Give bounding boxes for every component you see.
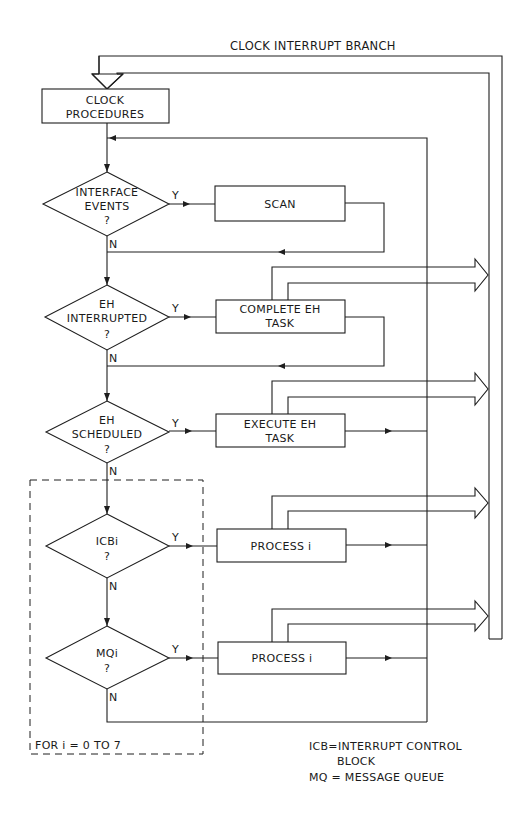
- legend: ICB=INTERRUPT CONTROL BLOCK MQ = MESSAGE…: [309, 740, 463, 784]
- decision-icb-i: ICBi ? Y N: [46, 514, 179, 593]
- process-text: EXECUTE EH: [244, 418, 317, 431]
- yes-label: Y: [171, 643, 179, 656]
- decision-text: ?: [104, 328, 110, 341]
- process-execute-eh-task: EXECUTE EH TASK: [216, 414, 345, 447]
- process-text: TASK: [265, 317, 295, 330]
- no-label: N: [109, 691, 118, 704]
- diagram-title: CLOCK INTERRUPT BRANCH: [230, 39, 396, 53]
- yes-label: Y: [171, 531, 179, 544]
- decision-eh-scheduled: EH SCHEDULED ? Y N: [46, 401, 179, 478]
- decision-text: ?: [104, 214, 110, 227]
- decision-eh-interrupted: EH INTERRUPTED ? Y N: [45, 285, 179, 365]
- process-i-icb: PROCESS i: [217, 529, 346, 562]
- decision-text: INTERFACE: [76, 186, 139, 199]
- bus-arrow-process-i-icb: [272, 488, 488, 529]
- decision-text: INTERRUPTED: [67, 312, 148, 325]
- yes-label: Y: [171, 417, 179, 430]
- no-label: N: [109, 580, 118, 593]
- decision-text: ?: [104, 443, 110, 456]
- clock-procedures-line1: CLOCK: [86, 94, 125, 107]
- no-label: N: [109, 465, 118, 478]
- process-scan: SCAN: [215, 186, 345, 221]
- decision-text: ICBi: [96, 535, 119, 548]
- clock-procedures-line2: PROCEDURES: [66, 108, 145, 121]
- process-text: PROCESS i: [252, 652, 313, 665]
- yes-label: Y: [171, 189, 179, 202]
- legend-line: MQ = MESSAGE QUEUE: [309, 771, 444, 784]
- bus-arrow-execute-eh: [272, 373, 488, 414]
- process-text: PROCESS i: [251, 540, 312, 553]
- flowchart: CLOCK INTERRUPT BRANCH CLOCK PROCEDURES …: [0, 0, 528, 823]
- process-complete-eh-task: COMPLETE EH TASK: [216, 300, 345, 333]
- bus-arrow-complete-eh: [272, 259, 488, 300]
- decision-text: EVENTS: [84, 200, 129, 213]
- legend-line: BLOCK: [337, 755, 376, 768]
- process-text: TASK: [265, 432, 295, 445]
- process-i-mq: PROCESS i: [218, 642, 346, 674]
- clock-procedures-box: CLOCK PROCEDURES: [42, 89, 169, 123]
- decision-text: SCHEDULED: [72, 428, 143, 441]
- no-label: N: [109, 238, 118, 251]
- decision-text: MQi: [96, 647, 118, 660]
- decision-text: ?: [104, 550, 110, 563]
- decision-mq-i: MQi ? Y N: [46, 626, 179, 704]
- loop-label: FOR i = 0 TO 7: [35, 739, 121, 752]
- no-label: N: [109, 352, 118, 365]
- bus-arrow-process-i-mq: [272, 601, 488, 642]
- process-text: SCAN: [264, 198, 296, 211]
- decision-text: EH: [99, 298, 115, 311]
- legend-line: ICB=INTERRUPT CONTROL: [309, 740, 463, 753]
- process-text: COMPLETE EH: [239, 303, 320, 316]
- decision-interface-events: INTERFACE EVENTS ? Y N: [43, 172, 179, 251]
- yes-label: Y: [171, 302, 179, 315]
- bottom-return-line: [107, 689, 427, 722]
- decision-text: ?: [104, 662, 110, 675]
- decision-text: EH: [99, 414, 115, 427]
